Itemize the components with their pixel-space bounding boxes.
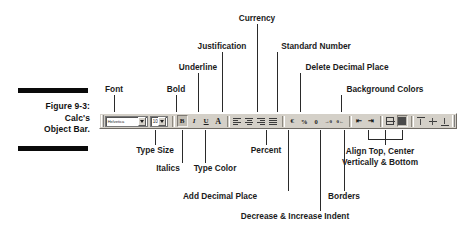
toolbar-end-grip bbox=[452, 115, 455, 127]
annotation-add-decimal-place: Add Decimal Place bbox=[183, 192, 257, 202]
delete-decimal-place-button[interactable]: 0← bbox=[335, 115, 346, 127]
align-center-vertically-button[interactable] bbox=[428, 115, 439, 127]
align-center-vertically-icon bbox=[429, 117, 438, 126]
leader-percent bbox=[266, 130, 267, 145]
annotation-standard-number-text: Standard Number bbox=[281, 41, 351, 51]
align-left-button[interactable] bbox=[232, 115, 243, 127]
leader-italics bbox=[182, 130, 183, 163]
annotation-delete-decimal-place-text: Delete Decimal Place bbox=[305, 62, 388, 72]
leader-align-center-vertically bbox=[385, 130, 386, 139]
annotation-italics: Italics bbox=[156, 164, 180, 174]
leader-type-color bbox=[205, 130, 206, 163]
standard-number-icon: 0 bbox=[315, 118, 318, 125]
figure-container: Figure 9-3: Calc's Object Bar. Currency … bbox=[0, 0, 463, 233]
annotation-standard-number: Standard Number bbox=[281, 42, 351, 52]
toolbar-separator bbox=[282, 116, 285, 127]
annotation-type-color-text: Type Color bbox=[194, 163, 237, 173]
italic-icon: I bbox=[193, 118, 196, 125]
font-size-dropdown-arrow[interactable] bbox=[158, 117, 166, 126]
currency-icon: € bbox=[290, 118, 294, 125]
borders-icon bbox=[386, 117, 394, 125]
annotation-add-decimal-place-text: Add Decimal Place bbox=[183, 191, 257, 201]
annotation-type-size: Type Size bbox=[136, 146, 174, 156]
figure-caption-line-3: Object Bar. bbox=[0, 124, 90, 136]
delete-decimal-place-icon: 0← bbox=[336, 118, 344, 125]
increase-indent-button[interactable]: ⇥ bbox=[366, 115, 377, 127]
leader-align-top bbox=[368, 130, 369, 139]
align-top-icon bbox=[417, 117, 426, 126]
align-center-button[interactable] bbox=[244, 115, 255, 127]
font-color-button[interactable]: A bbox=[213, 115, 224, 127]
font-color-icon: A bbox=[215, 118, 221, 125]
font-name-combo[interactable]: Helvetica bbox=[105, 116, 148, 127]
borders-button[interactable] bbox=[385, 115, 396, 127]
annotation-delete-decimal-place: Delete Decimal Place bbox=[305, 63, 388, 73]
decrease-indent-button[interactable]: ⇤ bbox=[354, 115, 365, 127]
background-color-button[interactable] bbox=[397, 115, 408, 127]
toolbar-separator bbox=[411, 116, 414, 127]
add-decimal-place-button[interactable]: →0 bbox=[323, 115, 334, 127]
add-decimal-place-icon: →0 bbox=[324, 118, 332, 125]
align-justified-button[interactable] bbox=[268, 115, 279, 127]
leader-background-colors bbox=[341, 95, 342, 112]
annotation-background-colors-text: Background Colors bbox=[347, 84, 424, 94]
caption-rule-top bbox=[18, 88, 88, 93]
leader-type-size bbox=[155, 130, 156, 145]
font-size-combo[interactable]: 10 bbox=[150, 116, 168, 127]
align-justified-icon bbox=[269, 117, 278, 126]
annotation-justification-text: Justification bbox=[198, 41, 247, 51]
annotation-indent-text: Decrease & Increase Indent bbox=[241, 211, 349, 221]
standard-number-button[interactable]: 0 bbox=[311, 115, 322, 127]
toolbar-grip[interactable] bbox=[101, 115, 104, 127]
increase-indent-icon: ⇥ bbox=[368, 118, 374, 125]
annotation-italics-text: Italics bbox=[156, 163, 180, 173]
annotation-align-vertical-text-1: Align Top, Center bbox=[342, 146, 418, 157]
align-center-icon bbox=[245, 117, 254, 126]
object-bar-toolbar[interactable]: Helvetica 10 B I U A bbox=[99, 113, 457, 129]
annotation-underline: Underline bbox=[179, 63, 217, 73]
font-name-dropdown-arrow[interactable] bbox=[138, 117, 146, 126]
annotation-borders: Borders bbox=[328, 192, 360, 202]
annotation-percent: Percent bbox=[251, 146, 281, 156]
leader-align-bottom bbox=[402, 130, 403, 139]
annotation-underline-text: Underline bbox=[179, 62, 217, 72]
annotation-type-color: Type Color bbox=[194, 164, 237, 174]
annotation-font: Font bbox=[105, 85, 123, 95]
leader-justification bbox=[222, 52, 223, 112]
annotation-align-vertical-text-2: Vertically & Bottom bbox=[342, 157, 418, 168]
leader-borders bbox=[344, 130, 345, 191]
align-right-icon bbox=[257, 117, 266, 126]
italic-button[interactable]: I bbox=[189, 115, 200, 127]
align-bottom-icon bbox=[441, 117, 450, 126]
font-size-value[interactable]: 10 bbox=[151, 118, 158, 124]
underline-icon: U bbox=[204, 118, 209, 125]
annotation-bold: Bold bbox=[167, 85, 185, 95]
annotation-percent-text: Percent bbox=[251, 145, 281, 155]
figure-caption-line-2: Calc's bbox=[0, 113, 90, 125]
underline-button[interactable]: U bbox=[201, 115, 212, 127]
background-color-icon bbox=[398, 117, 406, 125]
align-right-button[interactable] bbox=[256, 115, 267, 127]
font-name-value[interactable]: Helvetica bbox=[106, 118, 138, 124]
leader-standard-number bbox=[277, 52, 278, 112]
annotation-background-colors: Background Colors bbox=[347, 85, 424, 95]
decrease-indent-icon: ⇤ bbox=[356, 118, 362, 125]
leader-font bbox=[114, 95, 115, 112]
figure-caption-line-1: Figure 9-3: bbox=[0, 101, 90, 113]
annotation-align-vertical: Align Top, Center Vertically & Bottom bbox=[342, 146, 418, 167]
align-bottom-button[interactable] bbox=[440, 115, 451, 127]
align-left-icon bbox=[233, 117, 242, 126]
annotation-bold-text: Bold bbox=[167, 84, 185, 94]
toolbar-separator bbox=[349, 116, 352, 127]
toolbar-separator bbox=[227, 116, 230, 127]
annotation-currency-text: Currency bbox=[239, 13, 275, 23]
figure-caption: Figure 9-3: Calc's Object Bar. bbox=[0, 101, 90, 136]
leader-align-stem bbox=[385, 139, 386, 145]
bold-button[interactable]: B bbox=[177, 115, 188, 127]
percent-format-button[interactable]: % bbox=[299, 115, 310, 127]
toolbar-separator bbox=[172, 116, 175, 127]
leader-underline bbox=[198, 73, 199, 112]
currency-format-button[interactable]: € bbox=[287, 115, 298, 127]
align-top-button[interactable] bbox=[416, 115, 427, 127]
leader-bold bbox=[176, 95, 177, 112]
